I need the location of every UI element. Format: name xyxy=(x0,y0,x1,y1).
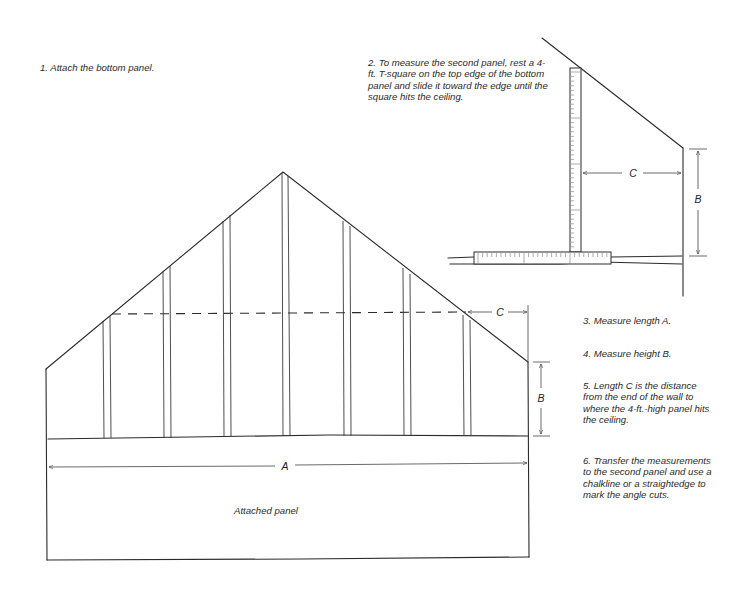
tsquare-base xyxy=(474,252,611,264)
inset-panel-top-edge xyxy=(448,257,474,258)
attached-panel-label: Attached panel xyxy=(233,505,299,516)
label-c-inset: C xyxy=(629,167,637,179)
dimension-b-inset: B xyxy=(689,149,707,256)
main-gable-drawing: C B A Attached panel xyxy=(46,172,550,560)
inset-ceiling-line xyxy=(542,38,683,148)
dimension-c-inset: C xyxy=(583,167,681,179)
bottom-panel-top-edge xyxy=(48,435,528,439)
inset-panel-top-edge-right xyxy=(611,256,682,257)
right-wall-edge xyxy=(528,362,529,557)
dimension-a: A xyxy=(49,460,527,472)
label-b-main: B xyxy=(537,392,544,404)
label-a: A xyxy=(280,460,288,472)
left-wall-edge xyxy=(46,369,47,560)
gable-roofline xyxy=(46,172,528,369)
inset-tsquare-drawing: C B xyxy=(448,38,707,296)
label-c-main: C xyxy=(496,306,504,318)
wall-studs xyxy=(103,173,471,438)
dimension-b-main: B xyxy=(533,362,550,436)
label-b-inset: B xyxy=(694,193,701,205)
tsquare-blade xyxy=(570,68,581,252)
gable-wall-diagram: C B A Attached panel xyxy=(0,0,744,593)
bottom-panel-bottom-edge xyxy=(47,557,529,560)
dimension-c-main: C xyxy=(468,305,528,362)
